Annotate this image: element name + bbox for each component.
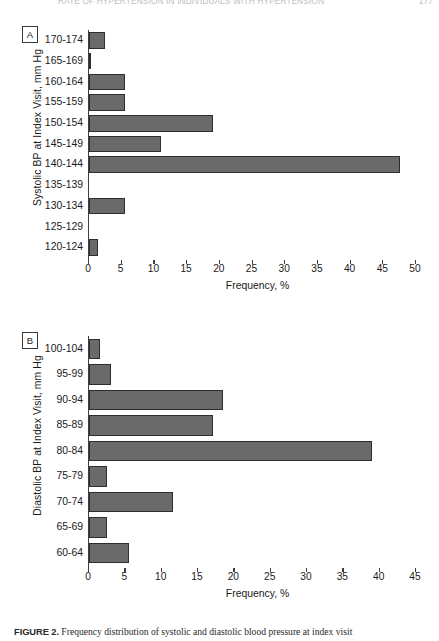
- bar-130-134: 130-134: [89, 198, 125, 215]
- bar-120-124: 120-124: [89, 239, 98, 256]
- running-head: RATE OF HYPERTENSION IN INDIVIDUALS WITH…: [0, 0, 439, 12]
- x-tick-label-30: 30: [300, 571, 311, 582]
- figure-caption-label: FIGURE 2.: [14, 626, 59, 637]
- y-tick-label-130-134: 130-134: [45, 198, 83, 215]
- bar-60-64: 60-64: [89, 543, 129, 563]
- x-tick-label-30: 30: [279, 263, 290, 274]
- bar-135-139: 135-139: [89, 177, 90, 194]
- y-tick-label-85-89: 85-89: [56, 415, 83, 435]
- bar-fill: [89, 136, 161, 153]
- bar-fill: [89, 74, 125, 91]
- y-tick-label-65-69: 65-69: [56, 517, 83, 537]
- bar-fill: [89, 517, 107, 537]
- bar-70-74: 70-74: [89, 492, 173, 512]
- x-tick-label-20: 20: [228, 571, 239, 582]
- bar-160-164: 160-164: [89, 74, 125, 91]
- y-tick-label-70-74: 70-74: [56, 492, 83, 512]
- panel-a-x-axis-title: Frequency, %: [88, 280, 427, 291]
- bar-140-144: 140-144: [89, 156, 400, 173]
- bar-fill: [89, 177, 90, 194]
- x-tick-label-35: 35: [311, 263, 322, 274]
- bar-145-149: 145-149: [89, 136, 161, 153]
- x-tick-label-0: 0: [85, 263, 91, 274]
- x-tick-label-10: 10: [148, 263, 159, 274]
- bar-90-94: 90-94: [89, 390, 223, 410]
- figure-caption-text: Frequency distribution of systolic and d…: [61, 626, 352, 637]
- bar-fill: [89, 156, 400, 173]
- running-head-page-number: 177: [419, 0, 433, 6]
- bar-fill: [89, 339, 100, 359]
- panel-b-x-axis-title: Frequency, %: [88, 588, 427, 599]
- bar-155-159: 155-159: [89, 94, 125, 111]
- y-tick-label-100-104: 100-104: [45, 339, 83, 359]
- panel-b-y-axis-title: Diastolic BP at Index Visit, mm Hg: [32, 321, 43, 551]
- bar-fill: [89, 94, 125, 111]
- y-tick-label-135-139: 135-139: [45, 177, 83, 194]
- y-tick-label-90-94: 90-94: [56, 390, 83, 410]
- y-tick-label-120-124: 120-124: [45, 239, 83, 256]
- bar-150-154: 150-154: [89, 115, 213, 132]
- x-tick-label-15: 15: [191, 571, 202, 582]
- y-tick-label-95-99: 95-99: [56, 364, 83, 384]
- y-tick-label-60-64: 60-64: [56, 543, 83, 563]
- bar-100-104: 100-104: [89, 339, 100, 359]
- panel-a-y-axis-title: Systolic BP at Index Visit, mm Hg: [32, 13, 43, 243]
- x-tick-label-25: 25: [264, 571, 275, 582]
- bar-fill: [89, 466, 107, 486]
- y-tick-label-125-129: 125-129: [45, 219, 83, 236]
- figure-caption: FIGURE 2. Frequency distribution of syst…: [14, 626, 426, 641]
- y-tick-label-140-144: 140-144: [45, 156, 83, 173]
- bar-75-79: 75-79: [89, 466, 107, 486]
- chart-panel-a: A Systolic BP at Index Visit, mm Hg 170-…: [0, 14, 439, 314]
- y-tick-label-150-154: 150-154: [45, 115, 83, 132]
- panel-a-plot-area: 170-174165-169160-164155-159150-154145-1…: [88, 30, 427, 260]
- bar-fill: [89, 390, 223, 410]
- x-tick-label-15: 15: [180, 263, 191, 274]
- bar-fill: [89, 543, 129, 563]
- x-tick-label-25: 25: [246, 263, 257, 274]
- x-tick-label-45: 45: [409, 571, 420, 582]
- bar-165-169: 165-169: [89, 53, 91, 70]
- y-tick-label-75-79: 75-79: [56, 466, 83, 486]
- running-head-title: RATE OF HYPERTENSION IN INDIVIDUALS WITH…: [58, 0, 324, 6]
- bar-fill: [89, 441, 372, 461]
- bar-fill: [89, 415, 213, 435]
- bar-95-99: 95-99: [89, 364, 111, 384]
- panel-b-plot-area: 100-10495-9990-9485-8980-8475-7970-7465-…: [88, 336, 427, 568]
- x-tick-label-50: 50: [409, 263, 420, 274]
- bar-80-84: 80-84: [89, 441, 372, 461]
- y-tick-label-80-84: 80-84: [56, 441, 83, 461]
- bar-65-69: 65-69: [89, 517, 107, 537]
- x-tick-label-40: 40: [344, 263, 355, 274]
- bar-170-174: 170-174: [89, 32, 105, 49]
- y-tick-label-160-164: 160-164: [45, 74, 83, 91]
- x-tick-label-45: 45: [377, 263, 388, 274]
- x-tick-label-40: 40: [373, 571, 384, 582]
- bar-fill: [89, 32, 105, 49]
- chart-panel-b: B Diastolic BP at Index Visit, mm Hg 100…: [0, 322, 439, 622]
- bar-fill: [89, 53, 91, 70]
- y-tick-label-170-174: 170-174: [45, 32, 83, 49]
- bar-85-89: 85-89: [89, 415, 213, 435]
- x-tick-label-35: 35: [337, 571, 348, 582]
- bar-fill: [89, 115, 213, 132]
- bar-fill: [89, 492, 173, 512]
- y-tick-label-145-149: 145-149: [45, 136, 83, 153]
- x-tick-label-0: 0: [85, 571, 91, 582]
- x-tick-label-5: 5: [118, 263, 124, 274]
- y-tick-label-155-159: 155-159: [45, 94, 83, 111]
- x-tick-label-5: 5: [121, 571, 127, 582]
- bar-fill: [89, 198, 125, 215]
- x-tick-label-10: 10: [155, 571, 166, 582]
- bar-fill: [89, 239, 98, 256]
- y-tick-label-165-169: 165-169: [45, 53, 83, 70]
- bar-fill: [89, 219, 90, 236]
- x-tick-label-20: 20: [213, 263, 224, 274]
- bar-125-129: 125-129: [89, 219, 90, 236]
- bar-fill: [89, 364, 111, 384]
